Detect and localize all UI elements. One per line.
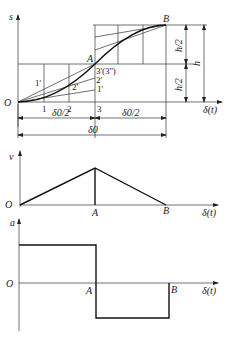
a-point-a-label: A xyxy=(85,285,93,296)
dim-half-delta-left-label: δ0/2 xyxy=(52,107,69,118)
dim-delta0-label: δ0 xyxy=(88,124,98,135)
label-2-prime-curve: 2' xyxy=(72,82,79,92)
label-1-prime-left: 1' xyxy=(35,78,42,88)
point-a-label: A xyxy=(86,53,94,64)
dim-half-h-bottom-label: h/2 xyxy=(173,78,184,91)
acceleration-plot: a O A B δ(t) xyxy=(6,217,218,331)
dim-h-label: h xyxy=(191,61,202,66)
ray-2 xyxy=(18,78,95,102)
a-origin-label: O xyxy=(6,278,13,289)
point-b-label: B xyxy=(163,13,169,24)
delta-axis-label: δ(t) xyxy=(203,104,218,116)
velocity-plot: v O A B δ(t) xyxy=(5,151,218,219)
motion-law-diagram: s O A B δ(t) 1 2 3 3'(3'') 2' 1' 1' 2' h… xyxy=(0,0,229,343)
a-delta-axis-label: δ(t) xyxy=(202,285,217,297)
ray-b2 xyxy=(95,25,166,50)
displacement-plot: s O A B δ(t) 1 2 3 3'(3'') 2' 1' 1' 2' h… xyxy=(4,11,222,138)
v-delta-axis-label: δ(t) xyxy=(202,207,217,219)
label-1-prime: 1' xyxy=(97,84,104,94)
dim-half-h-top-label: h/2 xyxy=(173,39,184,52)
tick-1: 1 xyxy=(42,104,47,114)
v-point-a-label: A xyxy=(91,207,99,218)
origin-label: O xyxy=(4,97,11,108)
velocity-curve xyxy=(20,168,166,205)
tick-3: 3 xyxy=(97,104,102,114)
a-axis-label: a xyxy=(10,217,15,228)
dim-half-delta-right-label: δ0/2 xyxy=(122,107,139,118)
v-axis-label: v xyxy=(9,151,14,162)
v-origin-label: O xyxy=(5,199,12,210)
a-point-b-label: B xyxy=(171,284,177,295)
acceleration-curve xyxy=(19,245,169,318)
s-axis-label: s xyxy=(9,11,13,22)
v-point-b-label: B xyxy=(163,205,169,216)
